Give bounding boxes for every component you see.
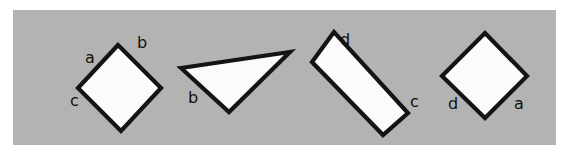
label-c-shape1: c	[70, 93, 79, 109]
label-d-shape4: d	[448, 96, 458, 112]
label-b-shape1: b	[137, 35, 147, 51]
label-a-shape1: a	[85, 50, 95, 66]
shapes-canvas	[0, 0, 573, 155]
label-b-shape2: b	[188, 90, 198, 106]
label-a-shape4: a	[514, 96, 524, 112]
label-d-shape3: d	[340, 32, 350, 48]
label-c-shape3: c	[410, 94, 419, 110]
shape-rectangle-3	[312, 32, 408, 135]
figure-page: a b c b d c d a	[0, 0, 573, 155]
